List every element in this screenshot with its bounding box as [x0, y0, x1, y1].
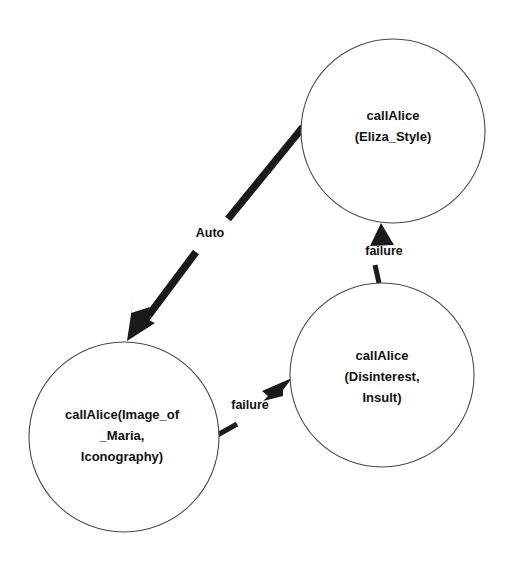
node-eliza-style-label-line-1: callAlice: [367, 108, 420, 123]
node-disinterest-insult-label-line-3: Insult): [363, 390, 402, 405]
edge-auto-line-upper: [228, 127, 303, 219]
diagram-canvas: Auto failure failure callAlice (Eliza_St…: [0, 0, 506, 567]
edge-auto-line-lower: [140, 252, 196, 327]
node-eliza-style-label-line-2: (Eliza_Style): [355, 129, 432, 144]
node-image-of-maria-label-line-1: callAlice(Image_of: [65, 407, 180, 422]
node-image-of-maria-label-line-2: _Maria,: [99, 428, 145, 443]
edge-failure-up-arrowhead-icon: [370, 223, 394, 246]
node-image-of-maria-label-line-3: Iconography): [81, 449, 163, 464]
node-image-of-maria[interactable]: callAlice(Image_of _Maria, Iconography): [29, 342, 219, 532]
edge-failure-right-label: failure: [231, 398, 269, 412]
node-eliza-style[interactable]: callAlice (Eliza_Style): [301, 39, 485, 223]
edge-failure-up-label: failure: [365, 244, 403, 258]
node-disinterest-insult-label-line-2: (Disinterest,: [344, 369, 419, 384]
edge-auto[interactable]: Auto: [127, 127, 303, 341]
edge-auto-label: Auto: [196, 226, 225, 240]
edge-failure-up-stub: [375, 265, 379, 283]
node-disinterest-insult-label-line-1: callAlice: [356, 348, 409, 363]
edge-failure-up[interactable]: failure: [365, 223, 403, 283]
edge-failure-right[interactable]: failure: [214, 378, 292, 437]
node-disinterest-insult[interactable]: callAlice (Disinterest, Insult): [290, 283, 474, 467]
